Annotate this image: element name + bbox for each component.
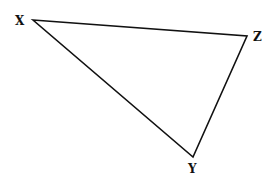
vertex-label-y: Y <box>187 162 197 176</box>
triangle-xyz <box>33 20 247 157</box>
triangle-diagram: X Z Y <box>0 0 275 182</box>
vertex-label-z: Z <box>253 30 262 44</box>
vertex-label-x: X <box>15 14 25 28</box>
